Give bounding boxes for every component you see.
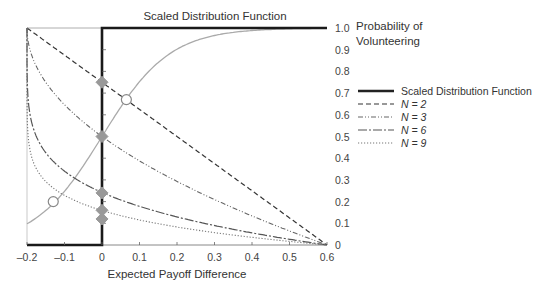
curve-n2 — [27, 28, 327, 245]
x-tick-label: –0.1 — [54, 251, 75, 263]
legend-label-n6: N = 6 — [401, 124, 427, 136]
x-tick-label: 0.5 — [282, 251, 297, 263]
y-tick-label: 0.8 — [335, 65, 350, 77]
chart-title: Scaled Distribution Function — [143, 10, 286, 22]
logistic-curve — [27, 28, 327, 224]
x-tick-label: 0.1 — [132, 251, 147, 263]
legend: Scaled Distribution Function N = 2 N = 3… — [358, 85, 532, 149]
legend-label-n2: N = 2 — [401, 98, 427, 110]
legend-label-sdf: Scaled Distribution Function — [401, 85, 532, 97]
y-tick-label: 1.0 — [335, 22, 350, 34]
x-tick-label: 0.4 — [245, 251, 260, 263]
x-tick-label: –0.2 — [17, 251, 38, 263]
y-tick-label: 0 — [335, 239, 341, 251]
y-tick-label: 0.2 — [335, 196, 350, 208]
open-circle-marker — [121, 95, 131, 105]
diamond-marker — [96, 187, 108, 199]
y-tick-label: 0.7 — [335, 87, 350, 99]
legend-label-n9: N = 9 — [401, 137, 427, 149]
y-axis-ticks: 00.10.20.30.40.50.60.70.80.91.0 — [335, 22, 350, 251]
y-tick-label: 0.4 — [335, 152, 350, 164]
y-tick-label: 0.5 — [335, 131, 350, 143]
x-tick-label: 0.2 — [170, 251, 185, 263]
x-axis-label: Expected Payoff Difference — [108, 268, 247, 280]
open-circle-marker — [48, 197, 58, 207]
y-tick-label: 0.6 — [335, 109, 350, 121]
plot-area — [27, 28, 327, 245]
x-tick-label: 0.6 — [320, 251, 335, 263]
diamond-marker — [96, 131, 108, 143]
y-axis-label-line1: Probability of — [356, 20, 423, 32]
y-tick-label: 0.3 — [335, 174, 350, 186]
diamond-marker — [96, 213, 108, 225]
diamond-marker — [96, 76, 108, 88]
x-tick-label: 0.3 — [207, 251, 222, 263]
x-tick-label: 0 — [99, 251, 105, 263]
y-tick-label: 0.1 — [335, 217, 350, 229]
y-tick-label: 0.9 — [335, 44, 350, 56]
legend-label-n3: N = 3 — [401, 111, 427, 123]
chart: Scaled Distribution Function Expected Pa… — [0, 0, 543, 294]
y-axis-label-line2: Volunteering — [356, 35, 420, 47]
